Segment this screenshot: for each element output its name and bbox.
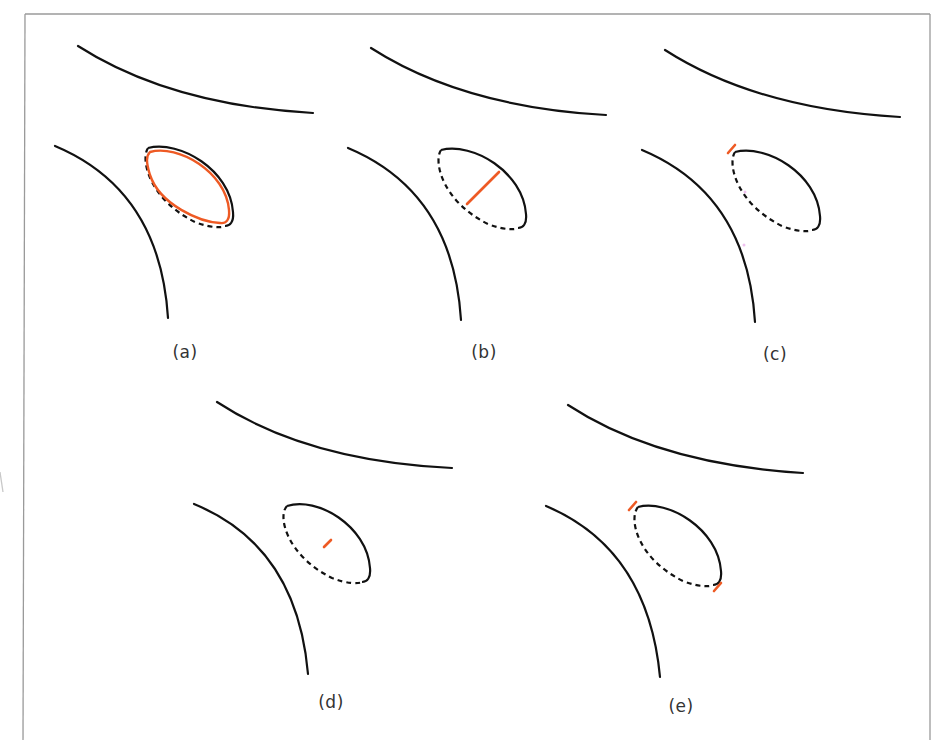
ellipse-dashed-arc <box>283 506 362 583</box>
lower-curve <box>348 148 461 320</box>
panel-label-c: (c) <box>763 344 787 364</box>
artifact-dot <box>744 191 747 194</box>
ellipse-dashed-arc <box>634 507 713 586</box>
upper-curve <box>568 405 803 473</box>
highlight-ellipse-outline <box>147 151 229 224</box>
panel-b <box>348 48 606 320</box>
upper-curve <box>665 50 900 117</box>
panel-label-e: (e) <box>668 696 693 716</box>
lower-curve <box>55 146 168 318</box>
lower-curve <box>194 504 308 674</box>
ellipse-dashed-arc <box>438 150 518 229</box>
highlight-start-tick <box>629 502 636 510</box>
lower-curve <box>642 150 755 322</box>
panel-c <box>642 50 900 322</box>
ellipse-solid-arc <box>638 506 721 585</box>
artifact-dot <box>743 244 746 247</box>
lower-curve <box>546 506 660 677</box>
highlight-diagonal-segment <box>467 172 499 204</box>
highlight-center-segment <box>324 540 331 547</box>
panel-d <box>194 402 452 674</box>
panel-a <box>55 46 313 318</box>
ellipse-solid-arc <box>735 151 820 230</box>
panel-label-d: (d) <box>318 692 344 712</box>
upper-curve <box>78 46 313 113</box>
upper-curve <box>371 48 606 115</box>
panel-label-a: (a) <box>172 342 197 362</box>
figure-frame <box>0 14 930 740</box>
figure-canvas <box>0 0 937 740</box>
upper-curve <box>217 402 452 468</box>
panel-label-b: (b) <box>471 342 497 362</box>
panel-e <box>546 405 803 677</box>
